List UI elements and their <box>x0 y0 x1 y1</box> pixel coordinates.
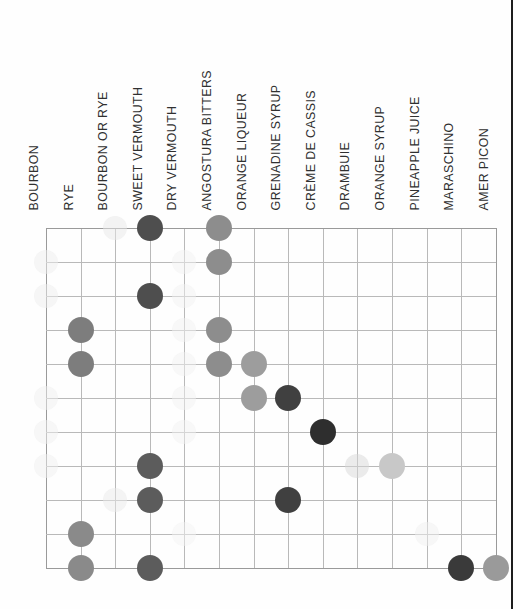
matrix-dot-r5-c7 <box>275 385 301 411</box>
matrix-dot-r7-c10 <box>379 453 405 479</box>
matrix-dot-r10-c1 <box>68 555 94 581</box>
gridline-vertical-13 <box>496 228 497 568</box>
gridline-horizontal-4 <box>46 364 496 365</box>
matrix-dot-r5-c0 <box>34 386 58 410</box>
chart-page: BOURBONRYEBOURBON OR RYESWEET VERMOUTHDR… <box>0 0 527 609</box>
ingredient-matrix-grid <box>46 228 496 568</box>
matrix-dot-r10-c3 <box>137 555 163 581</box>
matrix-dot-r4-c1 <box>68 351 94 377</box>
matrix-dot-r7-c9 <box>345 454 369 478</box>
gridline-horizontal-10 <box>46 568 496 569</box>
gridline-horizontal-5 <box>46 398 496 399</box>
column-label-3: SWEET VERMOUTH <box>131 86 143 210</box>
matrix-dot-r8-c3 <box>137 487 163 513</box>
matrix-dot-r2-c0 <box>34 284 58 308</box>
column-label-7: GRENADINE SYRUP <box>270 84 282 210</box>
matrix-dot-r3-c1 <box>68 317 94 343</box>
matrix-dot-r4-c4 <box>172 352 196 376</box>
column-label-1: RYE <box>62 184 74 210</box>
column-label-0: BOURBON <box>28 145 40 210</box>
matrix-dot-r9-c4 <box>172 522 196 546</box>
matrix-dot-r4-c6 <box>241 351 267 377</box>
column-label-13: AMER PICON <box>477 128 489 210</box>
matrix-dot-r7-c0 <box>34 454 58 478</box>
matrix-dot-r7-c3 <box>137 453 163 479</box>
column-label-12: MARASCHINO <box>443 122 455 210</box>
column-label-5: ANGOSTURA BITTERS <box>201 70 213 210</box>
matrix-dot-r9-c11 <box>415 522 439 546</box>
matrix-dot-r6-c0 <box>34 420 58 444</box>
column-label-11: PINEAPPLE JUICE <box>408 96 420 210</box>
matrix-dot-r2-c4 <box>172 284 196 308</box>
matrix-dot-r1-c4 <box>172 250 196 274</box>
gridline-horizontal-1 <box>46 262 496 263</box>
gridline-horizontal-6 <box>46 432 496 433</box>
column-label-row: BOURBONRYEBOURBON OR RYESWEET VERMOUTHDR… <box>0 0 511 216</box>
matrix-dot-r3-c5 <box>206 317 232 343</box>
matrix-dot-r2-c3 <box>137 283 163 309</box>
gridline-horizontal-3 <box>46 330 496 331</box>
matrix-dot-r6-c8 <box>310 419 336 445</box>
matrix-dot-r8-c2 <box>103 488 127 512</box>
page-margin <box>515 0 527 609</box>
matrix-dot-r0-c2 <box>103 216 127 240</box>
page-edge-line <box>511 0 513 609</box>
matrix-dot-r0-c5 <box>206 215 232 241</box>
column-label-4: DRY VERMOUTH <box>166 105 178 210</box>
gridline-horizontal-7 <box>46 466 496 467</box>
matrix-dot-r5-c4 <box>172 386 196 410</box>
matrix-dot-r0-c3 <box>137 215 163 241</box>
matrix-dot-r8-c7 <box>275 487 301 513</box>
matrix-dot-r10-c12 <box>448 555 474 581</box>
matrix-dot-r5-c6 <box>241 385 267 411</box>
matrix-dot-r4-c5 <box>206 351 232 377</box>
column-label-2: BOURBON OR RYE <box>97 91 109 210</box>
gridline-horizontal-2 <box>46 296 496 297</box>
column-label-10: ORANGE SYRUP <box>374 105 386 210</box>
matrix-dot-r1-c5 <box>206 249 232 275</box>
matrix-dot-r6-c4 <box>172 420 196 444</box>
column-label-9: DRAMBUIE <box>339 141 351 210</box>
matrix-dot-r3-c4 <box>172 318 196 342</box>
matrix-dot-r9-c1 <box>68 521 94 547</box>
column-label-8: CRÈME DE CASSIS <box>304 90 316 210</box>
matrix-dot-r10-c13 <box>483 555 509 581</box>
column-label-6: ORANGE LIQUEUR <box>235 92 247 210</box>
matrix-dot-r1-c0 <box>34 250 58 274</box>
